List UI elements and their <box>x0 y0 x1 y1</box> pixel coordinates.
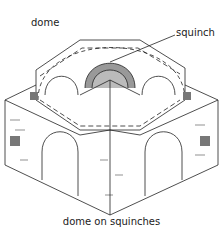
front-right-arch <box>145 132 182 196</box>
diagram-caption: dome on squinches <box>0 216 223 227</box>
front-left-arch <box>42 132 78 196</box>
shade-right <box>200 136 210 146</box>
squinch-pointer <box>110 35 175 62</box>
label-squinch: squinch <box>176 27 215 38</box>
shade-left <box>10 136 20 146</box>
label-dome: dome <box>31 17 59 28</box>
